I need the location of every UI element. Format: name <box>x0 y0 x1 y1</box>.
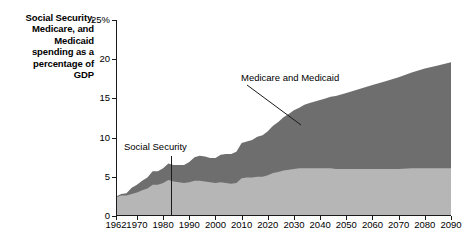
x-tick-label: 2050 <box>336 220 357 230</box>
x-tick-label: 2010 <box>231 220 252 230</box>
x-tick-label: 2080 <box>414 220 435 230</box>
x-axis-line <box>116 215 451 216</box>
x-tick-label: 2000 <box>205 220 226 230</box>
chart-plot-area: 0510152025% 1962197019801990200020102020… <box>116 20 451 216</box>
title-line-4: spending as a <box>2 46 94 57</box>
y-tick <box>112 98 116 99</box>
y-tick <box>112 138 116 139</box>
page-title: Social Security, Medicare, and Medicaid … <box>2 12 94 80</box>
title-line-6: GDP <box>2 69 94 80</box>
y-tick <box>112 20 116 21</box>
y-tick-label: 20 <box>99 54 110 64</box>
y-tick-label: 5 <box>105 172 110 182</box>
y-tick <box>112 177 116 178</box>
y-axis-line <box>116 20 117 216</box>
y-tick-label: 15 <box>99 94 110 104</box>
title-line-5: percentage of <box>2 58 94 69</box>
x-tick-label: 2030 <box>283 220 304 230</box>
x-tick-label: 1980 <box>153 220 174 230</box>
title-line-2: Medicare, and <box>2 23 94 34</box>
x-tick-label: 2090 <box>440 220 461 230</box>
y-tick-label: 25% <box>91 15 110 25</box>
annotation-medicare-medicaid: Medicare and Medicaid <box>241 73 339 83</box>
leader-line-social-security <box>171 156 172 216</box>
annotation-social-security: Social Security <box>124 142 187 152</box>
x-tick-label: 1962 <box>105 220 126 230</box>
stacked-area-series <box>116 20 451 216</box>
x-tick-label: 1970 <box>126 220 147 230</box>
x-tick-label: 2020 <box>257 220 278 230</box>
x-tick-label: 2060 <box>362 220 383 230</box>
x-tick-label: 2070 <box>388 220 409 230</box>
title-line-3: Medicaid <box>2 35 94 46</box>
title-line-1: Social Security, <box>2 12 94 23</box>
y-tick <box>112 59 116 60</box>
x-tick-label: 1990 <box>179 220 200 230</box>
y-tick-label: 10 <box>99 133 110 143</box>
x-tick-label: 2040 <box>310 220 331 230</box>
